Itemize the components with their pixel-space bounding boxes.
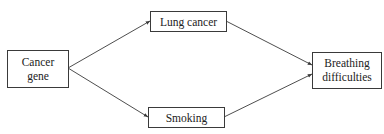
node-breathing-difficulties: Breathing difficulties [313, 53, 382, 89]
node-label-line: Lung cancer [160, 16, 217, 29]
node-label-line: Cancer [22, 56, 55, 68]
node-lung-cancer: Lung cancer [151, 12, 227, 32]
edge-lung-cancer-to-breathing [226, 21, 312, 65]
edge-cancer-gene-to-smoking [68, 68, 148, 117]
edge-cancer-gene-to-lung-cancer [68, 21, 150, 68]
causal-diagram: Cancer gene Lung cancer Smoking Breathin… [0, 0, 384, 134]
node-label-line: Breathing [324, 57, 370, 70]
node-label-line: Smoking [166, 112, 208, 125]
edge-smoking-to-breathing [224, 74, 312, 117]
node-cancer-gene: Cancer gene [8, 51, 69, 88]
node-label-line: gene [27, 70, 49, 83]
node-smoking: Smoking [149, 108, 225, 128]
node-label-line: difficulties [322, 71, 372, 83]
